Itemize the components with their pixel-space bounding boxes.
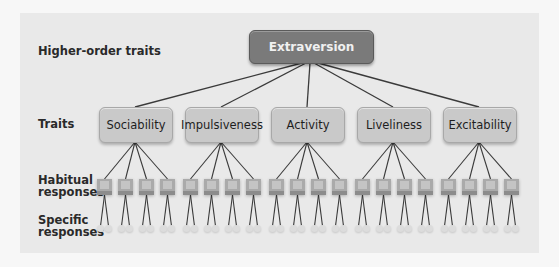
specific-response-node	[277, 225, 284, 232]
specific-response-node	[126, 225, 133, 232]
node-trait-impulsiveness: Impulsiveness	[185, 107, 259, 143]
specific-response-node	[168, 225, 175, 232]
specific-response-node	[246, 225, 253, 232]
habitual-response-node	[418, 179, 433, 195]
specific-response-node	[397, 225, 404, 232]
specific-response-node	[311, 225, 318, 232]
specific-response-node	[512, 225, 519, 232]
specific-response-node	[204, 225, 211, 232]
node-trait-liveliness: Liveliness	[357, 107, 431, 143]
habitual-response-node	[269, 179, 284, 195]
node-extraversion: Extraversion	[249, 30, 374, 64]
habitual-response-node	[397, 179, 412, 195]
habitual-response-node	[183, 179, 198, 195]
habitual-response-node	[97, 179, 112, 195]
specific-response-node	[254, 225, 261, 232]
specific-response-node	[418, 225, 425, 232]
habitual-response-node	[332, 179, 347, 195]
specific-response-node	[225, 225, 232, 232]
specific-response-node	[118, 225, 125, 232]
habitual-response-node	[311, 179, 326, 195]
habitual-response-node	[204, 179, 219, 195]
habitual-response-node	[290, 179, 305, 195]
habitual-response-node	[160, 179, 175, 195]
habitual-response-node	[246, 179, 261, 195]
specific-response-node	[290, 225, 297, 232]
node-trait-activity: Activity	[271, 107, 345, 143]
node-trait-excitability: Excitability	[443, 107, 517, 143]
node-trait-sociability: Sociability	[99, 107, 173, 143]
specific-response-node	[462, 225, 469, 232]
specific-response-node	[298, 225, 305, 232]
specific-response-node	[233, 225, 240, 232]
specific-response-node	[470, 225, 477, 232]
specific-response-node	[212, 225, 219, 232]
habitual-response-node	[462, 179, 477, 195]
specific-response-node	[183, 225, 190, 232]
specific-response-node	[355, 225, 362, 232]
specific-response-node	[332, 225, 339, 232]
habitual-response-node	[504, 179, 519, 195]
habitual-response-node	[225, 179, 240, 195]
specific-response-node	[105, 225, 112, 232]
specific-response-node	[384, 225, 391, 232]
specific-response-node	[269, 225, 276, 232]
specific-response-node	[504, 225, 511, 232]
specific-response-node	[449, 225, 456, 232]
specific-response-node	[483, 225, 490, 232]
specific-response-node	[491, 225, 498, 232]
specific-response-node	[376, 225, 383, 232]
specific-response-node	[441, 225, 448, 232]
specific-response-node	[340, 225, 347, 232]
habitual-response-node	[139, 179, 154, 195]
specific-response-node	[363, 225, 370, 232]
habitual-response-node	[483, 179, 498, 195]
specific-response-node	[405, 225, 412, 232]
specific-response-node	[319, 225, 326, 232]
habitual-response-node	[376, 179, 391, 195]
specific-response-node	[97, 225, 104, 232]
specific-response-node	[426, 225, 433, 232]
habitual-response-node	[441, 179, 456, 195]
specific-response-node	[160, 225, 167, 232]
habitual-response-node	[355, 179, 370, 195]
specific-response-node	[191, 225, 198, 232]
habitual-response-node	[118, 179, 133, 195]
specific-response-node	[147, 225, 154, 232]
specific-response-node	[139, 225, 146, 232]
